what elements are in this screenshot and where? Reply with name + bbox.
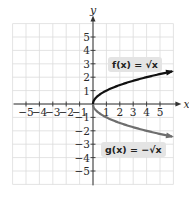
- f-function-label: f(x) = √x: [108, 57, 162, 72]
- y-tick-label: 5: [83, 31, 90, 43]
- g-function-label: g(x) = −√x: [101, 142, 166, 157]
- x-tick-label: 3: [130, 106, 137, 118]
- y-tick-label: −4: [75, 152, 91, 164]
- y-tick-label: −1: [75, 111, 90, 123]
- y-tick-label: 3: [83, 58, 90, 70]
- y-axis-label: y: [89, 4, 97, 17]
- y-tick-label: 1: [83, 85, 90, 97]
- x-axis-label: x: [183, 98, 189, 111]
- y-tick-label: −2: [75, 125, 90, 137]
- y-tick-label: 4: [83, 44, 90, 56]
- y-tick-label: 2: [83, 71, 90, 83]
- x-tick-label: 2: [116, 106, 123, 118]
- x-tick-label: 5: [157, 106, 164, 118]
- coordinate-plane: xy −5−4−3−2−112345−5−4−3−2−112345: [0, 0, 189, 199]
- x-axis-arrow-icon: [175, 102, 181, 107]
- y-tick-label: −3: [75, 138, 90, 150]
- x-tick-label: 4: [143, 106, 150, 118]
- y-tick-label: −5: [75, 165, 90, 177]
- f-arrow-icon: [166, 70, 174, 76]
- g-arrow-icon: [166, 132, 174, 138]
